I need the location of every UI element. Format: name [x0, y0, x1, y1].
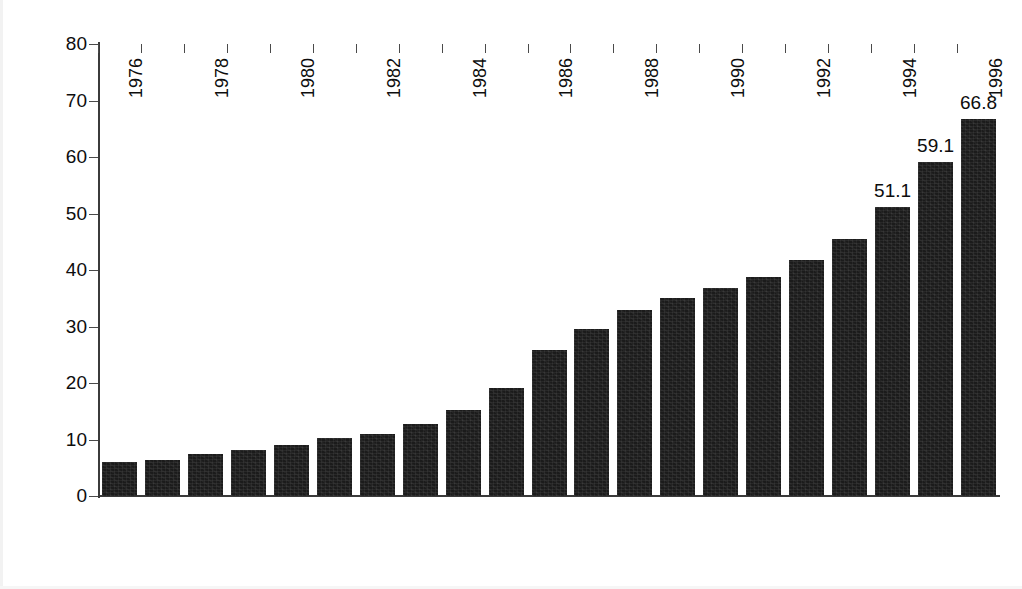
y-axis-tick-label: 60	[66, 146, 87, 168]
bar	[660, 298, 695, 496]
y-axis-tick-label: 50	[66, 203, 87, 225]
y-axis-tick	[89, 101, 98, 102]
y-axis-tick	[89, 383, 98, 384]
x-axis-tick	[656, 44, 657, 53]
x-axis-tick-label: 1980	[298, 58, 319, 98]
x-axis-tick	[957, 44, 958, 53]
x-axis-tick	[356, 44, 357, 53]
bar	[360, 434, 395, 496]
bar: 59.1	[918, 162, 953, 496]
bar	[274, 445, 309, 496]
bar-value-label: 51.1	[874, 180, 911, 202]
bar	[231, 450, 266, 496]
bar: 66.8	[961, 119, 996, 496]
bar	[317, 438, 352, 496]
x-axis-tick	[528, 44, 529, 53]
bar	[746, 277, 781, 496]
x-axis-tick-label: 1982	[384, 58, 405, 98]
y-axis-tick	[89, 327, 98, 328]
x-axis-tick-label: 1976	[126, 58, 147, 98]
bar	[703, 288, 738, 496]
x-axis-tick-label: 1994	[900, 58, 921, 98]
x-axis-tick	[184, 44, 185, 53]
x-axis-tick-label: 1988	[642, 58, 663, 98]
x-axis-tick	[785, 44, 786, 53]
y-axis-tick-label: 80	[66, 33, 87, 55]
x-axis-tick	[442, 44, 443, 53]
bar	[617, 310, 652, 496]
x-axis-tick	[570, 44, 571, 53]
y-axis-tick	[89, 214, 98, 215]
x-axis-tick-label: 1986	[556, 58, 577, 98]
y-axis-tick	[89, 496, 98, 497]
x-axis-tick	[613, 44, 614, 53]
bar	[574, 329, 609, 496]
y-axis-tick	[89, 44, 98, 45]
y-axis-tick-label: 20	[66, 372, 87, 394]
bar-value-label: 59.1	[917, 135, 954, 157]
bar: 51.1	[875, 207, 910, 496]
x-axis-tick	[141, 44, 142, 53]
x-axis-tick	[485, 44, 486, 53]
y-axis-tick	[89, 157, 98, 158]
plot-area: 01020304050607080 1976197819801982198419…	[98, 44, 1000, 496]
x-axis-tick-label: 1992	[814, 58, 835, 98]
x-axis-tick	[828, 44, 829, 53]
bar	[789, 260, 824, 496]
bar-value-label: 66.8	[960, 92, 997, 114]
bar	[532, 350, 567, 496]
x-axis-tick	[742, 44, 743, 53]
scan-edge-left	[0, 0, 3, 589]
bar	[188, 454, 223, 496]
chart-figure: Millions of Enrollees 01020304050607080 …	[0, 0, 1022, 589]
y-axis-tick-label: 10	[66, 429, 87, 451]
y-axis-tick	[89, 270, 98, 271]
y-axis-tick-label: 30	[66, 316, 87, 338]
x-axis-tick-label: 1978	[212, 58, 233, 98]
bar	[102, 462, 137, 496]
x-axis-tick-label: 1984	[470, 58, 491, 98]
y-axis-tick	[89, 440, 98, 441]
x-axis-tick	[914, 44, 915, 53]
x-axis-tick	[871, 44, 872, 53]
bar	[403, 424, 438, 496]
bar	[489, 388, 524, 496]
x-axis-tick	[313, 44, 314, 53]
x-axis-tick	[227, 44, 228, 53]
x-axis-tick	[399, 44, 400, 53]
y-axis-tick-label: 40	[66, 259, 87, 281]
y-axis-tick-label: 0	[76, 485, 87, 507]
x-axis-tick	[98, 44, 99, 53]
x-axis-tick-label: 1990	[728, 58, 749, 98]
bar	[446, 410, 481, 496]
y-axis-tick-label: 70	[66, 90, 87, 112]
x-axis-tick	[270, 44, 271, 53]
x-axis-tick	[699, 44, 700, 53]
bar	[145, 460, 180, 496]
bar	[832, 239, 867, 496]
